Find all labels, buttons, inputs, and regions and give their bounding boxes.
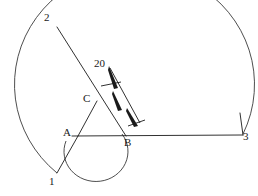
dimension-group xyxy=(101,68,145,126)
arrowhead-group xyxy=(108,66,138,127)
label-point-a: A xyxy=(63,127,71,138)
label-point-1: 1 xyxy=(49,176,55,187)
small-arc-group xyxy=(64,134,128,181)
figure-canvas xyxy=(0,0,258,196)
arrowhead-middle xyxy=(112,91,122,111)
arrowhead-upper xyxy=(108,66,118,89)
label-point-2: 2 xyxy=(44,12,50,23)
arc-group xyxy=(15,0,255,173)
label-point-3: 3 xyxy=(243,131,249,142)
major-arc-path xyxy=(15,0,255,173)
line-a-to-3 xyxy=(72,135,243,136)
minor-arc-path xyxy=(64,134,128,181)
line-2-to-b xyxy=(57,27,126,136)
geometry-figure: 2 20 C A B 3 1 xyxy=(0,0,258,196)
label-dimension-20: 20 xyxy=(94,58,105,69)
label-point-c: C xyxy=(83,93,90,104)
line-a-to-1 xyxy=(57,136,78,173)
line-c-to-a xyxy=(78,101,97,136)
label-point-b: B xyxy=(124,137,131,148)
